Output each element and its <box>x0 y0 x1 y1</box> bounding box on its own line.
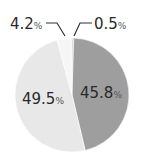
leader-line-0-5 <box>74 23 92 36</box>
leader-line-4-2 <box>46 23 65 36</box>
label-4-2: 4.2% <box>10 15 43 33</box>
pie-chart: 4.2% 0.5% 49.5% 45.8% <box>0 0 143 153</box>
label-0-5: 0.5% <box>94 15 127 33</box>
